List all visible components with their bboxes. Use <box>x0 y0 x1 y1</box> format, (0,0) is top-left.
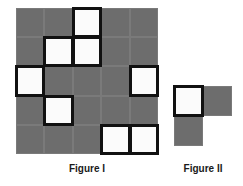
gray-cell <box>44 66 72 95</box>
white-cell <box>72 7 102 38</box>
gray-cell <box>73 66 101 95</box>
white-cell <box>43 95 73 126</box>
gray-cell <box>73 125 101 154</box>
gray-cell <box>44 8 72 37</box>
white-cell <box>72 36 102 67</box>
gray-cell <box>130 96 158 125</box>
gray-cell <box>73 96 101 125</box>
gray-cell <box>101 8 129 37</box>
white-cell <box>129 65 159 96</box>
gray-cell <box>174 116 203 146</box>
gray-cell <box>16 96 44 125</box>
gray-cell <box>16 37 44 66</box>
figure-1-caption: Figure I <box>57 163 117 174</box>
white-cell <box>173 85 204 117</box>
white-cell <box>129 124 159 155</box>
gray-cell <box>101 96 129 125</box>
white-cell <box>100 124 130 155</box>
gray-cell <box>16 8 44 37</box>
white-cell <box>43 36 73 67</box>
gray-cell <box>203 86 232 116</box>
gray-cell <box>130 8 158 37</box>
gray-cell <box>16 125 44 154</box>
gray-cell <box>101 66 129 95</box>
gray-cell <box>44 125 72 154</box>
figure-2-caption: Figure II <box>173 163 233 174</box>
gray-cell <box>130 37 158 66</box>
gray-cell <box>101 37 129 66</box>
white-cell <box>15 65 45 96</box>
